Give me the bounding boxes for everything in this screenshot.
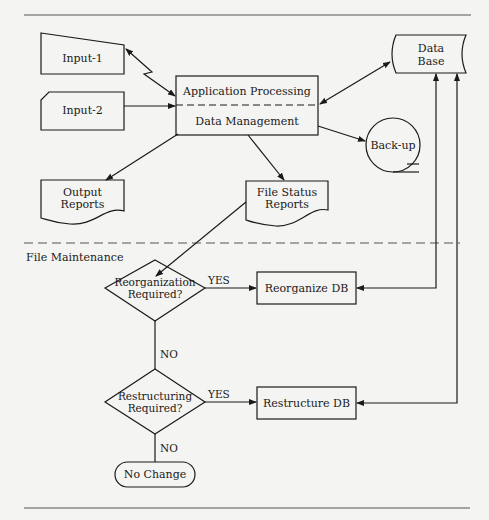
- file-status-line2: Reports: [246, 198, 328, 211]
- reorg-decision-line2: Required?: [105, 288, 205, 301]
- data-management-label: Data Management: [176, 115, 318, 128]
- reorg-no-label: NO: [160, 348, 178, 361]
- output-reports-line2: Reports: [41, 198, 124, 211]
- reorg-yes-label: YES: [208, 274, 230, 287]
- section-label: File Maintenance: [26, 251, 123, 264]
- restruct-decision-line2: Required?: [105, 402, 205, 415]
- app-processing-label: Application Processing: [176, 85, 318, 98]
- database-label-line2: Base: [396, 55, 466, 68]
- input1-label: Input-1: [41, 52, 124, 65]
- backup-label: Back-up: [366, 139, 420, 152]
- flowchart-canvas: Input-1 Input-2 Application Processing D…: [0, 0, 489, 520]
- restruct-yes-label: YES: [208, 388, 230, 401]
- input2-label: Input-2: [41, 104, 124, 117]
- restruct-no-label: NO: [160, 442, 178, 455]
- no-change-label: No Change: [115, 468, 195, 481]
- reorganize-label: Reorganize DB: [257, 282, 356, 295]
- restructure-label: Restructure DB: [257, 397, 356, 410]
- database-label-line1: Data: [396, 42, 466, 55]
